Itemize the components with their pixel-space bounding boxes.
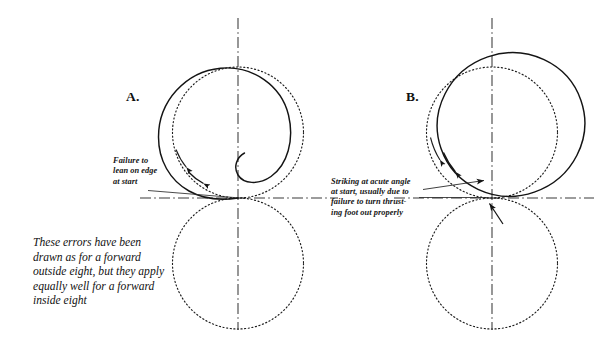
panel-a-label: A. — [126, 89, 140, 105]
panel-b-annotation: Striking at acute angle at start, usuall… — [331, 177, 411, 218]
panel-a-direction-arrow-solid — [189, 172, 204, 184]
figure-caption: These errors have been drawn as for a fo… — [33, 236, 233, 309]
panel-b-direction-arrow-solid — [444, 153, 456, 173]
panel-b-traced-edge — [418, 33, 604, 216]
panel-a-annotation: Failure to lean on edge at start — [113, 156, 157, 187]
panel-a-traced-edge — [159, 68, 291, 199]
panel-b-label: B. — [406, 89, 419, 105]
panel-b — [394, 18, 604, 330]
figure-root: A. B. Failure to lean on edge at start S… — [0, 0, 609, 363]
